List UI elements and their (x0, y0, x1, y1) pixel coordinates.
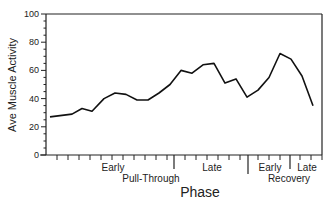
y-tick-label-80: 80 (29, 37, 39, 47)
x-axis-title: Phase (180, 184, 220, 200)
y-tick-label-20: 20 (29, 122, 39, 132)
label-recovery: Recovery (268, 173, 310, 184)
y-tick-label-40: 40 (29, 94, 39, 104)
y-tick-label-100: 100 (24, 9, 39, 19)
label-recovery-early: Early (259, 162, 282, 173)
line-chart: 0 20 40 60 80 100 Ave Muscle Activity Ea… (0, 0, 332, 206)
y-tick-label-0: 0 (34, 150, 39, 160)
x-ticks (57, 155, 322, 160)
y-axis-title: Ave Muscle Activity (6, 38, 18, 132)
label-recovery-late: Late (297, 162, 317, 173)
series-line (50, 54, 313, 117)
label-pull-early: Early (102, 162, 125, 173)
label-pull-late: Late (202, 162, 222, 173)
label-pull-through: Pull-Through (122, 173, 179, 184)
y-tick-label-60: 60 (29, 65, 39, 75)
